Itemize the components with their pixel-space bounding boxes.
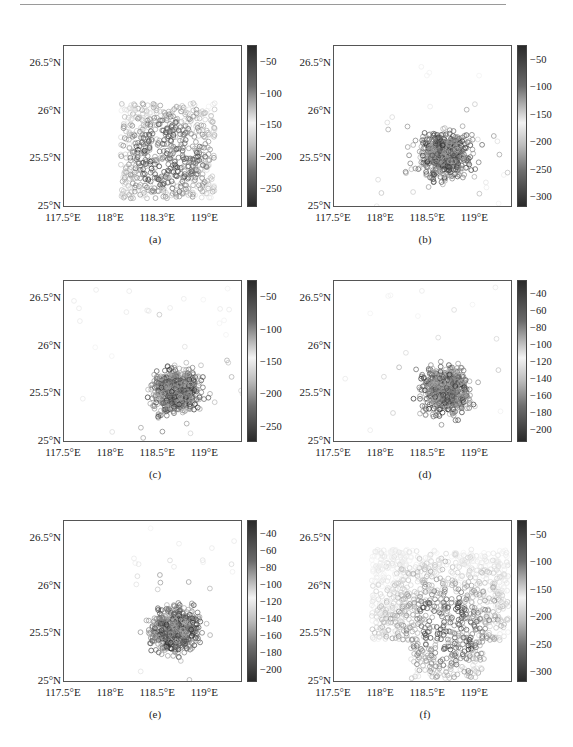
y-tick-label: 26°N	[308, 579, 331, 591]
y-tick-label: 25°N	[38, 674, 61, 686]
scatter-axes	[333, 45, 512, 207]
colorbar-tick-label: −200	[530, 611, 552, 622]
panel-caption: (a)	[20, 233, 290, 245]
x-tick-label: 118.3°E	[139, 211, 174, 223]
colorbar-tick-label: −200	[530, 136, 552, 147]
colorbar	[517, 520, 527, 682]
y-tick-label: 25.5°N	[299, 151, 331, 163]
y-tick-label: 26.5°N	[29, 56, 61, 68]
colorbar-tick-label: −140	[530, 373, 552, 384]
x-tick-label: 117.5°E	[45, 446, 80, 458]
colorbar-tick-label: −100	[530, 81, 552, 92]
panel-a: 25°N25.5°N26°N26.5°N117.5°E118°E118.3°E1…	[20, 35, 290, 263]
y-tick-label: 25.5°N	[299, 386, 331, 398]
x-tick-label: 118.5°E	[409, 686, 444, 698]
colorbar-tick-label: −250	[260, 182, 282, 193]
y-tick-label: 26.5°N	[299, 291, 331, 303]
x-tick-label: 118.5°E	[409, 211, 444, 223]
y-tick-label: 26.5°N	[29, 291, 61, 303]
y-tick-label: 26.5°N	[29, 531, 61, 543]
x-tick-label: 117.5°E	[45, 211, 80, 223]
colorbar-tick-label: −150	[260, 119, 282, 130]
colorbar-tick-label: −200	[260, 388, 282, 399]
x-tick-label: 118°E	[96, 446, 123, 458]
x-tick-label: 119°E	[191, 686, 218, 698]
panel-b: 25°N25.5°N26°N26.5°N117.5°E118°E118.5°E1…	[290, 35, 560, 263]
y-tick-label: 25°N	[308, 674, 331, 686]
panel-caption: (c)	[20, 468, 290, 480]
colorbar-tick-label: −50	[530, 53, 546, 64]
colorbar-tick-label: −200	[530, 424, 552, 435]
colorbar-tick-label: −180	[530, 407, 552, 418]
colorbar-tick-label: −200	[260, 664, 282, 675]
x-tick-label: 118°E	[366, 211, 393, 223]
colorbar-tick-label: −250	[260, 420, 282, 431]
colorbar-tick-label: −250	[530, 638, 552, 649]
x-tick-label: 118.5°E	[409, 446, 444, 458]
panel-caption: (f)	[290, 708, 560, 720]
colorbar-tick-label: −60	[260, 544, 276, 555]
colorbar-tick-label: −50	[260, 55, 276, 66]
colorbar	[517, 280, 527, 442]
x-tick-label: 119°E	[461, 211, 488, 223]
colorbar-tick-label: −100	[530, 556, 552, 567]
y-tick-label: 26°N	[38, 104, 61, 116]
colorbar	[247, 45, 257, 207]
colorbar	[517, 45, 527, 207]
colorbar-tick-label: −300	[530, 191, 552, 202]
colorbar-tick-label: −40	[260, 527, 276, 538]
panel-f: 25°N25.5°N26°N26.5°N117.5°E118°E118.5°E1…	[290, 510, 560, 738]
top-rule	[20, 4, 506, 5]
panel-e: 25°N25.5°N26°N26.5°N117.5°E118°E118.5°E1…	[20, 510, 290, 738]
colorbar-tick-label: −100	[530, 338, 552, 349]
y-tick-label: 25.5°N	[29, 626, 61, 638]
colorbar-tick-label: −40	[530, 287, 546, 298]
colorbar-tick-label: −120	[530, 356, 552, 367]
x-tick-label: 119°E	[461, 686, 488, 698]
y-tick-label: 26°N	[308, 104, 331, 116]
scatter-axes	[333, 520, 512, 682]
x-tick-label: 118.5°E	[139, 446, 174, 458]
scatter-axes	[63, 45, 242, 207]
colorbar-tick-label: −80	[530, 321, 546, 332]
x-tick-label: 118.5°E	[139, 686, 174, 698]
panel-caption: (e)	[20, 708, 290, 720]
colorbar-tick-label: −250	[530, 163, 552, 174]
colorbar-tick-label: −150	[260, 356, 282, 367]
colorbar-tick-label: −160	[260, 630, 282, 641]
colorbar-tick-label: −60	[530, 304, 546, 315]
colorbar-tick-label: −160	[530, 390, 552, 401]
x-tick-label: 118°E	[366, 446, 393, 458]
scatter-axes	[63, 280, 242, 442]
colorbar-tick-label: −100	[260, 87, 282, 98]
x-tick-label: 118°E	[96, 211, 123, 223]
y-tick-label: 25°N	[308, 199, 331, 211]
y-tick-label: 25.5°N	[29, 386, 61, 398]
panel-d: 25°N25.5°N26°N26.5°N117.5°E118°E118.5°E1…	[290, 270, 560, 498]
x-tick-label: 119°E	[191, 446, 218, 458]
x-tick-label: 117.5°E	[315, 446, 350, 458]
panel-c: 25°N25.5°N26°N26.5°N117.5°E118°E118.5°E1…	[20, 270, 290, 498]
y-tick-label: 26°N	[308, 339, 331, 351]
y-tick-label: 26°N	[38, 579, 61, 591]
y-tick-label: 25°N	[308, 434, 331, 446]
x-tick-label: 119°E	[461, 446, 488, 458]
y-tick-label: 26.5°N	[299, 56, 331, 68]
colorbar-tick-label: −120	[260, 596, 282, 607]
colorbar-tick-label: −300	[530, 666, 552, 677]
colorbar-tick-label: −150	[530, 108, 552, 119]
scatter-axes	[63, 520, 242, 682]
y-tick-label: 25.5°N	[299, 626, 331, 638]
x-tick-label: 117.5°E	[315, 686, 350, 698]
colorbar-tick-label: −140	[260, 613, 282, 624]
y-tick-label: 25.5°N	[29, 151, 61, 163]
y-tick-label: 26°N	[38, 339, 61, 351]
colorbar	[247, 280, 257, 442]
colorbar-tick-label: −50	[530, 528, 546, 539]
colorbar-tick-label: −150	[530, 583, 552, 594]
x-tick-label: 118°E	[366, 686, 393, 698]
panel-caption: (d)	[290, 468, 560, 480]
y-tick-label: 26.5°N	[299, 531, 331, 543]
scatter-axes	[333, 280, 512, 442]
x-tick-label: 118°E	[96, 686, 123, 698]
